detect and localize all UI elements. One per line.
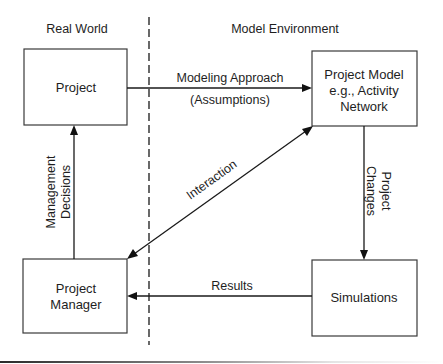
arrowhead-left-icon: [127, 292, 137, 300]
edge-modeling-label-line2: (Assumptions): [190, 93, 270, 107]
edge-results: Results: [127, 279, 312, 300]
edge-modeling-label-line1: Modeling Approach: [176, 71, 283, 85]
edge-modeling-approach: Modeling Approach (Assumptions): [127, 71, 312, 107]
arrowhead-down-icon: [360, 250, 368, 260]
real-world-heading: Real World: [46, 22, 108, 36]
node-project-model-label-line1: Project Model: [324, 67, 404, 82]
node-project-manager-label-line1: Project: [56, 281, 97, 296]
node-project-manager[interactable]: Project Manager: [23, 259, 127, 333]
edge-changes-label-line1: Project: [379, 172, 393, 211]
node-project-model-label-line2: e.g., Activity: [329, 83, 399, 98]
edge-decisions-label-line1: Management: [44, 155, 58, 228]
edge-decisions-label-line2: Decisions: [59, 165, 73, 219]
arrowhead-right-icon: [302, 84, 312, 92]
edge-results-label: Results: [211, 279, 253, 293]
node-project-manager-label-line2: Manager: [50, 297, 102, 312]
edge-project-changes: Project Changes: [360, 126, 393, 260]
edge-interaction-label: Interaction: [184, 157, 240, 202]
bottom-rule: [0, 361, 443, 363]
node-project-model-label-line3: Network: [340, 99, 388, 114]
edge-interaction: Interaction: [127, 126, 313, 259]
node-simulations[interactable]: Simulations: [312, 260, 417, 336]
edge-management-decisions: Management Decisions: [44, 125, 78, 259]
arrowhead-downleft-icon: [127, 249, 138, 259]
arrowhead-up-icon: [70, 125, 78, 135]
node-project[interactable]: Project: [24, 49, 127, 125]
diagram-canvas: Real World Model Environment Project Pro…: [0, 0, 443, 364]
model-environment-heading: Model Environment: [231, 22, 339, 36]
arrowhead-upright-icon: [302, 126, 313, 136]
node-simulations-label: Simulations: [330, 290, 398, 305]
node-project-model[interactable]: Project Model e.g., Activity Network: [312, 51, 417, 126]
edge-changes-label-line2: Changes: [364, 166, 378, 216]
node-project-label: Project: [56, 80, 97, 95]
